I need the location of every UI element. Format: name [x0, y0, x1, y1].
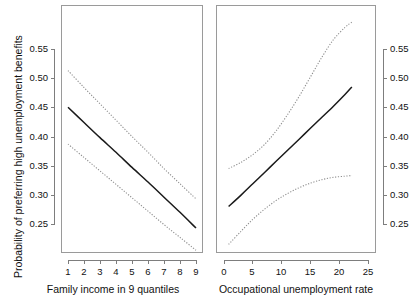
panel-occupational-unemployment: 0.55 0.50 0.45 0.40 0.35 0.30 0.25 0 5 1… — [206, 0, 412, 301]
series-line-upper-ci — [68, 71, 196, 199]
curves-left — [0, 0, 206, 301]
curves-right — [206, 0, 412, 301]
figure-panel-pair: Probability of preferring high unemploym… — [0, 0, 412, 301]
series-line-lower-ci — [229, 176, 352, 245]
series-line-fit — [68, 107, 196, 228]
panel-family-income: 0.55 0.50 0.45 0.40 0.35 0.30 0.25 1 2 3… — [0, 0, 206, 301]
series-line-lower-ci — [68, 144, 196, 250]
series-line-fit — [229, 87, 352, 207]
series-line-upper-ci — [229, 22, 352, 168]
